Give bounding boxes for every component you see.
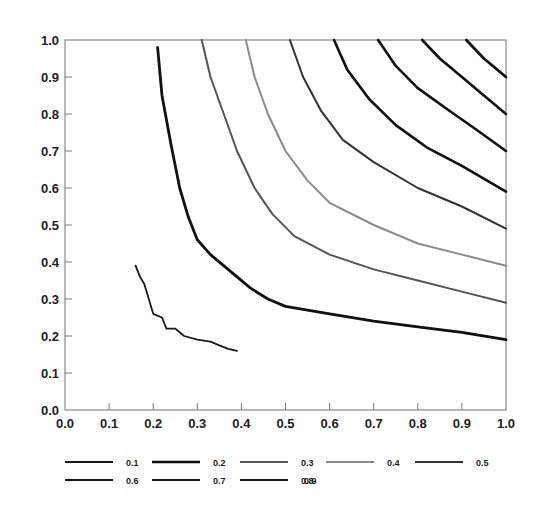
x-tick-label: 1.0 bbox=[497, 416, 515, 431]
y-tick-label: 0.6 bbox=[41, 181, 59, 196]
plot-area bbox=[65, 40, 506, 410]
contour-line-0.1 bbox=[136, 266, 237, 351]
y-tick-label: 0.2 bbox=[41, 329, 59, 344]
y-tick-label: 0.8 bbox=[41, 107, 59, 122]
x-tick-label: 0.9 bbox=[453, 416, 471, 431]
legend: 0.10.20.30.40.50.60.70.80.9 bbox=[65, 458, 489, 486]
x-tick-label: 0.0 bbox=[56, 416, 74, 431]
legend-label: 0.6 bbox=[126, 476, 139, 486]
x-tick-label: 0.6 bbox=[321, 416, 339, 431]
contour-lines bbox=[136, 40, 506, 351]
x-axis: 0.00.10.20.30.40.50.60.70.80.91.0 bbox=[56, 403, 515, 431]
legend-label: 0.2 bbox=[213, 458, 226, 468]
y-tick-label: 0.1 bbox=[41, 366, 59, 381]
x-tick-label: 0.5 bbox=[276, 416, 294, 431]
contour-line-0.8 bbox=[422, 40, 506, 114]
legend-label: 0.9 bbox=[304, 476, 317, 486]
y-axis: 0.00.10.20.30.40.50.60.70.80.91.0 bbox=[41, 33, 72, 418]
x-tick-label: 0.2 bbox=[144, 416, 162, 431]
legend-label: 0.4 bbox=[387, 458, 400, 468]
plot-frame bbox=[65, 40, 506, 410]
y-tick-label: 0.5 bbox=[41, 218, 59, 233]
contour-line-0.6 bbox=[334, 40, 506, 192]
contour-line-0.4 bbox=[246, 40, 506, 266]
contour-line-0.7 bbox=[378, 40, 506, 151]
y-tick-label: 0.7 bbox=[41, 144, 59, 159]
x-tick-label: 0.7 bbox=[365, 416, 383, 431]
y-tick-label: 0.9 bbox=[41, 70, 59, 85]
x-tick-label: 0.4 bbox=[232, 416, 251, 431]
contour-chart: 0.00.10.20.30.40.50.60.70.80.91.0 0.00.1… bbox=[0, 0, 540, 510]
y-tick-label: 1.0 bbox=[41, 33, 59, 48]
y-tick-label: 0.3 bbox=[41, 292, 59, 307]
legend-label: 0.3 bbox=[301, 458, 314, 468]
contour-line-0.9 bbox=[466, 40, 506, 77]
legend-label: 0.5 bbox=[476, 458, 489, 468]
x-tick-label: 0.8 bbox=[409, 416, 427, 431]
contour-line-0.2 bbox=[158, 47, 506, 339]
y-tick-label: 0.0 bbox=[41, 403, 59, 418]
legend-label: 0.7 bbox=[213, 476, 226, 486]
legend-label: 0.1 bbox=[126, 458, 139, 468]
x-tick-label: 0.1 bbox=[100, 416, 118, 431]
y-tick-label: 0.4 bbox=[41, 255, 60, 270]
x-tick-label: 0.3 bbox=[188, 416, 206, 431]
